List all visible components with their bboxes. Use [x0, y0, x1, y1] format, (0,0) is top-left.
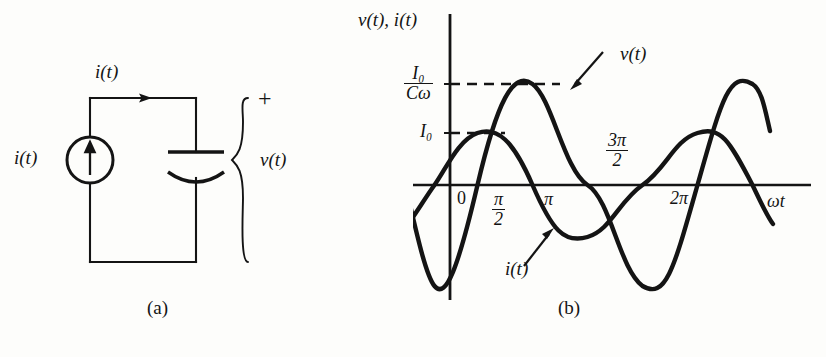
current-curve-label: i(t): [505, 259, 528, 278]
x-tick-label-pi-over-2: π 2: [492, 190, 505, 229]
x-tick-label-2pi: 2π: [670, 189, 688, 207]
caption-b: (b): [558, 298, 580, 317]
voltage-brace-icon: [232, 98, 248, 262]
x-tick-numerator-3pi: 3π: [606, 131, 628, 150]
branch-current-label: i(t): [95, 62, 118, 81]
y-tick-numerator: I₀: [404, 64, 433, 83]
figure-root: i(t) i(t) + v(t) (a) v: [0, 0, 826, 357]
x-tick-denominator-3pi: 2: [606, 150, 628, 170]
y-tick-denominator: Cω: [404, 83, 433, 103]
x-tick-label-0: 0: [457, 189, 466, 207]
y-tick-label-i0: I₀: [420, 122, 432, 140]
current-curve-pointer-arrow-icon: [524, 228, 554, 266]
source-label: i(t): [14, 148, 37, 167]
x-tick-label-pi: π: [544, 190, 553, 208]
polarity-plus-label: +: [258, 86, 272, 110]
caption-a: (a): [147, 298, 168, 317]
voltage-curve-label: v(t): [620, 44, 646, 63]
voltage-curve-pointer-arrow-icon: [570, 52, 603, 90]
x-axis-label: ωt: [767, 192, 785, 210]
circuit-diagram-svg: [0, 0, 413, 357]
x-tick-numerator: π: [492, 190, 505, 209]
y-axis-label: v(t), i(t): [358, 10, 417, 29]
x-tick-label-3pi-over-2: 3π 2: [606, 131, 628, 170]
x-tick-denominator: 2: [492, 209, 505, 229]
y-tick-label-i0-over-cw: I₀ Cω: [404, 64, 433, 103]
voltage-label: v(t): [260, 150, 286, 169]
